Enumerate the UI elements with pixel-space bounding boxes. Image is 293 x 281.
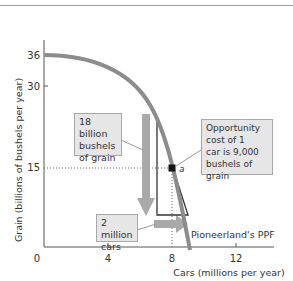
point-a [169, 165, 176, 172]
grain-line-3: of grain [79, 152, 117, 164]
opp-line-3: car is 9,000 [206, 146, 268, 158]
grain-annotation-box: 18 billion bushels of grain [74, 113, 122, 156]
opp-line-4: bushels of grain [206, 158, 268, 182]
y-tick-30: 30 [27, 81, 40, 92]
y-tick-15: 15 [27, 162, 40, 173]
ppf-label: Pioneerland's PPF [191, 229, 275, 240]
x-tick-12: 12 [230, 253, 243, 264]
y-tick-36: 36 [27, 50, 40, 61]
opp-line-2: cost of 1 [206, 134, 268, 146]
y-axis-label: Grain (billions of bushels per year) [13, 78, 24, 242]
cars-line-2: cars [101, 241, 133, 253]
grain-decrease-arrow [142, 114, 150, 200]
cars-annotation-box: 2 million cars [96, 214, 138, 242]
grain-line-1: 18 billion [79, 116, 117, 140]
point-a-label: a [179, 164, 185, 174]
x-tick-4: 4 [105, 253, 111, 264]
opportunity-cost-box: Opportunity cost of 1 car is 9,000 bushe… [201, 119, 273, 175]
cars-increase-arrow [154, 220, 178, 228]
grain-line-2: bushels [79, 140, 117, 152]
x-tick-0: 0 [34, 253, 40, 264]
x-axis-label: Cars (millions per year) [173, 267, 284, 278]
cars-line-1: 2 million [101, 217, 133, 241]
x-tick-8: 8 [169, 253, 175, 264]
opp-line-1: Opportunity [206, 122, 268, 134]
